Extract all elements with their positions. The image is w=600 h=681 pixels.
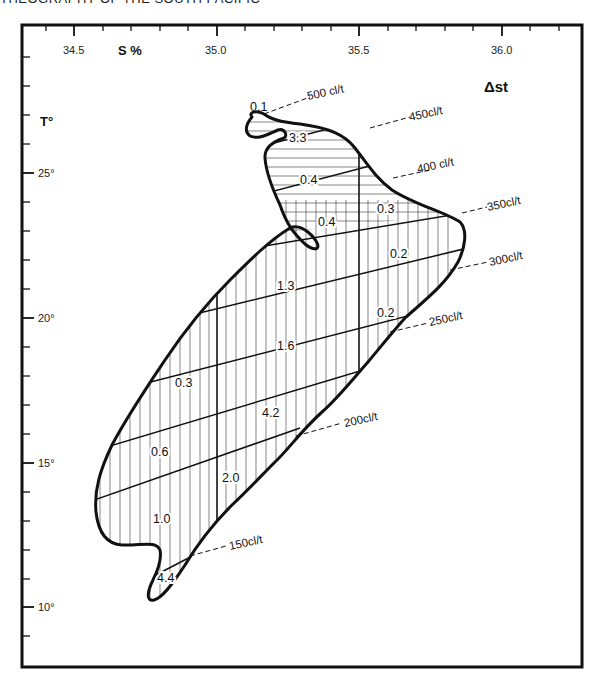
isostere-label-350: 350cl/t — [486, 194, 522, 213]
cell-value: 2.0 — [222, 471, 239, 485]
y-tick-label-20: 20° — [38, 312, 55, 324]
x-tick-label-35-0: 35.0 — [205, 44, 226, 56]
x-axis-ticks — [46, 25, 559, 36]
cell-value: 0.3 — [175, 376, 192, 390]
isostere-label-250: 250cl/t — [428, 309, 464, 328]
cell-value: 3.3 — [289, 131, 306, 145]
cell-value: 4.4 — [157, 571, 174, 585]
isostere-label-300: 300cl/t — [488, 249, 524, 268]
cell-value: 4.2 — [262, 406, 279, 420]
isostere-label-150: 150cl/t — [228, 533, 264, 552]
ts-diagram: 34.5 S % 35.0 35.5 36.0 T° 25° 20° 15° 1… — [0, 0, 600, 681]
y-axis-ticks — [22, 57, 34, 636]
x-tick-label-36-0: 36.0 — [491, 44, 512, 56]
y-tick-label-25: 25° — [38, 167, 55, 179]
isostere-label-500: 500 cl/t — [306, 82, 346, 102]
cell-value: 0.1 — [250, 100, 267, 114]
cell-value: 1.0 — [153, 512, 170, 526]
cell-value: 0.4 — [300, 173, 317, 187]
cell-value: 0.2 — [377, 306, 394, 320]
y-tick-label-15: 15° — [38, 457, 55, 469]
x-tick-label-34-5: 34.5 — [63, 44, 84, 56]
isostere-label-400: 400 cl/t — [416, 155, 456, 175]
y-tick-label-10: 10° — [38, 601, 55, 613]
cell-value: 0.4 — [318, 215, 335, 229]
cell-value: 0.6 — [151, 445, 168, 459]
x-tick-label-35-5: 35.5 — [348, 44, 369, 56]
x-axis-title: S % — [118, 43, 142, 58]
cell-value: 0.3 — [377, 202, 394, 216]
isostere-label-200: 200cl/t — [343, 410, 379, 429]
isostere-label-450: 450cl/t — [408, 104, 444, 123]
legend-title-delta-st: Δst — [484, 78, 508, 95]
y-axis-title: T° — [40, 114, 53, 129]
cell-value: 1.6 — [277, 339, 294, 353]
cell-value: 0.2 — [390, 247, 407, 261]
cell-value: 1.3 — [277, 279, 294, 293]
